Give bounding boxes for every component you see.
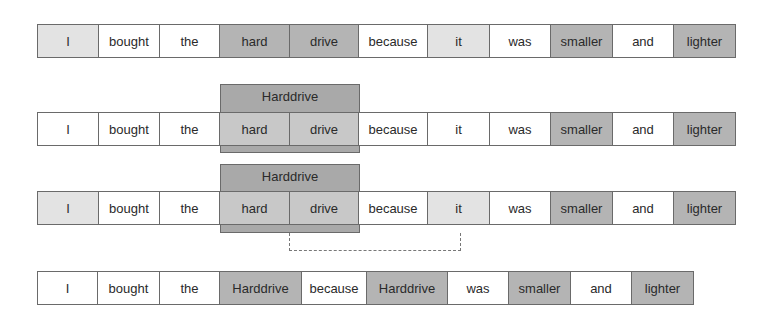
row-merged-span: I bought the hard drive because it was s… [37, 112, 736, 146]
token-cell: hard [220, 191, 290, 225]
token-cell: was [448, 271, 509, 305]
token-cell: it [428, 112, 490, 146]
token-cell: and [613, 112, 674, 146]
token-cell: I [37, 112, 99, 146]
token-cell: bought [99, 191, 160, 225]
merged-span-label: Harddrive [221, 85, 359, 107]
token-cell: bought [99, 24, 160, 58]
token-cell: it [428, 24, 490, 58]
token-cell: lighter [674, 191, 736, 225]
token-cell: smaller [509, 271, 571, 305]
token-cell: I [37, 271, 98, 305]
token-cell: it [428, 191, 490, 225]
token-cell: the [160, 112, 220, 146]
merged-span-label: Harddrive [221, 165, 359, 187]
token-cell: was [490, 191, 551, 225]
token-cell: I [37, 191, 99, 225]
token-cell: hard [220, 24, 290, 58]
token-cell: the [160, 271, 220, 305]
row-coreference-link: I bought the hard drive because it was s… [37, 191, 736, 225]
token-cell: smaller [551, 112, 613, 146]
token-cell: and [613, 191, 674, 225]
token-cell: was [490, 112, 551, 146]
token-cell: lighter [674, 112, 736, 146]
token-cell: bought [98, 271, 160, 305]
token-cell: the [160, 191, 220, 225]
token-cell: smaller [551, 24, 613, 58]
token-cell: smaller [551, 191, 613, 225]
token-cell: bought [99, 112, 160, 146]
token-cell: was [490, 24, 551, 58]
token-cell: Harddrive [367, 271, 448, 305]
coreference-dashed-link [289, 233, 461, 251]
token-cell: because [359, 191, 428, 225]
token-cell: the [160, 24, 220, 58]
token-cell: because [302, 271, 367, 305]
token-cell: drive [290, 24, 359, 58]
token-cell: lighter [632, 271, 694, 305]
token-cell: drive [290, 191, 359, 225]
token-cell: and [571, 271, 632, 305]
token-cell: Harddrive [220, 271, 302, 305]
row-original-sentence: I bought the hard drive because it was s… [37, 24, 736, 58]
token-cell: because [359, 24, 428, 58]
token-cell: I [37, 24, 99, 58]
token-cell: lighter [674, 24, 736, 58]
token-cell: because [359, 112, 428, 146]
token-cell: drive [290, 112, 359, 146]
token-cell: hard [220, 112, 290, 146]
row-resolved-sentence: I bought the Harddrive because Harddrive… [37, 271, 694, 305]
token-cell: and [613, 24, 674, 58]
